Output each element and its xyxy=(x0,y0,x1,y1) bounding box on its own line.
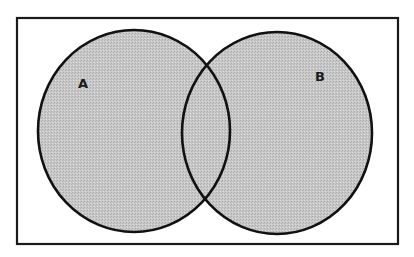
venn-diagram: A B xyxy=(0,0,414,257)
set-a-label: A xyxy=(78,76,88,91)
set-b-label: B xyxy=(315,69,325,84)
